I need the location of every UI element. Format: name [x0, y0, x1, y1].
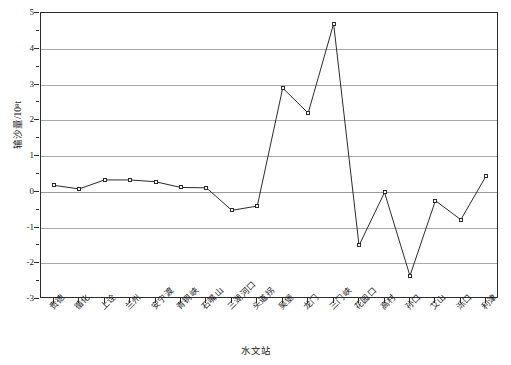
data-series-sediment-load [41, 13, 499, 299]
y-tick-mark [34, 298, 39, 299]
x-axis-title: 水文站 [0, 343, 511, 357]
data-point-marker [128, 178, 132, 182]
y-tick-mark [34, 48, 39, 49]
y-minor-tick [36, 244, 39, 245]
y-tick-label: -1 [0, 222, 34, 231]
y-tick-mark [34, 155, 39, 156]
y-tick-mark [34, 227, 39, 228]
data-point-marker [103, 178, 107, 182]
y-tick-mark [34, 191, 39, 192]
data-point-marker [484, 174, 488, 178]
y-tick-mark [34, 119, 39, 120]
y-tick-mark [34, 12, 39, 13]
y-minor-tick [36, 209, 39, 210]
y-minor-tick [36, 173, 39, 174]
y-tick-label: -2 [0, 258, 34, 267]
y-minor-tick [36, 101, 39, 102]
data-point-marker [281, 86, 285, 90]
y-tick-label: 5 [0, 8, 34, 17]
data-point-marker [306, 111, 310, 115]
data-point-marker [154, 180, 158, 184]
y-tick-mark [34, 84, 39, 85]
data-point-marker [52, 183, 56, 187]
data-point-marker [383, 190, 387, 194]
y-minor-tick [36, 280, 39, 281]
chart-figure: -3-2-1012345 输沙量/10⁸t 贵德循化上诠兰州安宁渡青铜峡石嘴山三… [0, 0, 511, 365]
y-minor-tick [36, 30, 39, 31]
data-point-marker [433, 199, 437, 203]
data-point-marker [77, 187, 81, 191]
series-polyline [41, 13, 499, 299]
y-tick-label: -3 [0, 294, 34, 303]
y-minor-tick [36, 137, 39, 138]
x-axis-tick-labels: 贵德循化上诠兰州安宁渡青铜峡石嘴山三湖河口头道拐吴堡龙门三门峡花园口高村孙口艾山… [40, 303, 498, 348]
data-point-marker [179, 185, 183, 189]
data-point-marker [332, 22, 336, 26]
y-axis-title: 输沙量/10⁸t [10, 70, 24, 180]
plot-area [40, 12, 498, 298]
data-point-marker [357, 243, 361, 247]
y-tick-mark [34, 262, 39, 263]
data-point-marker [230, 208, 234, 212]
y-tick-label: 0 [0, 186, 34, 195]
data-point-marker [408, 274, 412, 278]
data-point-marker [255, 204, 259, 208]
data-point-marker [204, 186, 208, 190]
y-minor-tick [36, 66, 39, 67]
y-tick-label: 4 [0, 43, 34, 52]
data-point-marker [459, 218, 463, 222]
